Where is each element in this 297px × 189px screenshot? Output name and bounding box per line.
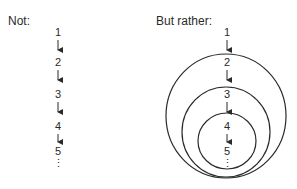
right-number-3: 3 (224, 88, 230, 100)
left-number-3: 3 (55, 88, 61, 100)
right-number-5: 5 (224, 145, 230, 157)
right-number-4: 4 (224, 120, 230, 132)
right-number-2: 2 (224, 56, 230, 68)
left-number-2: 2 (55, 56, 61, 68)
right-ellipsis: ⋮ (222, 157, 233, 169)
left-ellipsis: ⋮ (53, 157, 64, 169)
left-chain: 1 2 3 4 5 ⋮ (53, 26, 64, 169)
diagram-canvas: 1 2 3 4 5 ⋮ 1 2 3 4 5 ⋮ (0, 0, 297, 189)
right-chain: 1 2 3 4 5 ⋮ (222, 26, 233, 169)
left-number-4: 4 (55, 120, 61, 132)
left-number-5: 5 (55, 145, 61, 157)
left-number-1: 1 (55, 26, 61, 38)
right-number-1: 1 (224, 26, 230, 38)
